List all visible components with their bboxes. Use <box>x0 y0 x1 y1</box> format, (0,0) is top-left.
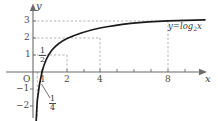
x-tick-label-4: 4 <box>97 75 103 84</box>
log-curve <box>36 20 205 121</box>
y-tick-label-1: 1 <box>25 50 31 59</box>
curve-equation-label: y=log2x <box>168 22 202 32</box>
one-half-numerator: 1 <box>39 47 46 55</box>
y-tick-label-minus1: −1 <box>16 84 29 93</box>
one-quarter-numerator: 1 <box>49 95 56 103</box>
x-tick-label-2: 2 <box>64 75 70 84</box>
curve-equation-main: y=log <box>168 21 193 31</box>
plot-canvas <box>0 0 218 121</box>
one-half-fraction-label: 1 2 <box>39 47 46 64</box>
log-graph-figure: y x O 3 2 1 −1 −2 1 2 4 8 1 2 1 4 y=log2… <box>0 0 218 121</box>
x-tick-label-1: 1 <box>40 75 46 84</box>
y-tick-label-minus2: −2 <box>16 101 29 110</box>
x-axis-label: x <box>205 74 211 84</box>
y-axis <box>30 4 36 119</box>
curve-equation-arg: x <box>197 21 202 31</box>
x-axis <box>6 69 207 76</box>
y-tick-label-3: 3 <box>24 16 30 25</box>
y-axis-label: y <box>36 1 42 11</box>
y-tick-label-2: 2 <box>24 33 30 42</box>
x-tick-label-8: 8 <box>165 75 171 84</box>
one-quarter-denominator: 4 <box>49 103 56 112</box>
one-quarter-fraction-label: 1 4 <box>49 95 56 112</box>
one-half-denominator: 2 <box>39 55 46 64</box>
